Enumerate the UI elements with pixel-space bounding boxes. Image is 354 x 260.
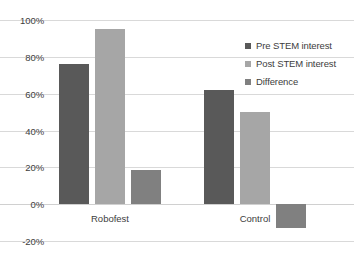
legend-item-label: Difference	[256, 76, 298, 87]
bar	[276, 204, 306, 228]
legend-item-label: Post STEM interest	[256, 58, 336, 69]
x-axis-category-label: Control	[240, 213, 271, 224]
bar	[95, 29, 125, 204]
bar-chart: 100%80%60%40%20%0%-20% RobofestControl P…	[0, 0, 354, 260]
bar	[59, 64, 89, 204]
bar	[204, 90, 234, 204]
legend-swatch-icon	[245, 61, 251, 67]
legend-swatch-icon	[245, 79, 251, 85]
legend-item: Post STEM interest	[245, 58, 336, 69]
chart-legend: Pre STEM interestPost STEM interestDiffe…	[245, 40, 336, 87]
legend-item: Difference	[245, 76, 336, 87]
x-axis-category-label: Robofest	[91, 213, 129, 224]
legend-item: Pre STEM interest	[245, 40, 336, 51]
bar	[131, 170, 161, 204]
bar	[240, 112, 270, 204]
legend-item-label: Pre STEM interest	[256, 40, 332, 51]
legend-swatch-icon	[245, 43, 251, 49]
plot-area	[0, 0, 354, 260]
